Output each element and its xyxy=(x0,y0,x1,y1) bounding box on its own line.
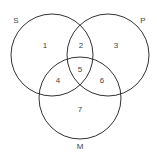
set-label-p: P xyxy=(140,16,145,25)
circle-p xyxy=(67,14,149,96)
region-label-6: 6 xyxy=(100,76,105,85)
region-label-1: 1 xyxy=(43,41,48,50)
region-label-5: 5 xyxy=(78,65,83,74)
region-label-4: 4 xyxy=(56,76,61,85)
circle-s xyxy=(11,14,93,96)
venn-diagram: S P M 1 2 3 4 5 6 7 xyxy=(0,0,157,154)
set-label-m: M xyxy=(77,142,84,151)
region-label-2: 2 xyxy=(79,41,84,50)
region-label-3: 3 xyxy=(114,41,119,50)
region-label-7: 7 xyxy=(78,105,83,114)
set-label-s: S xyxy=(13,16,18,25)
